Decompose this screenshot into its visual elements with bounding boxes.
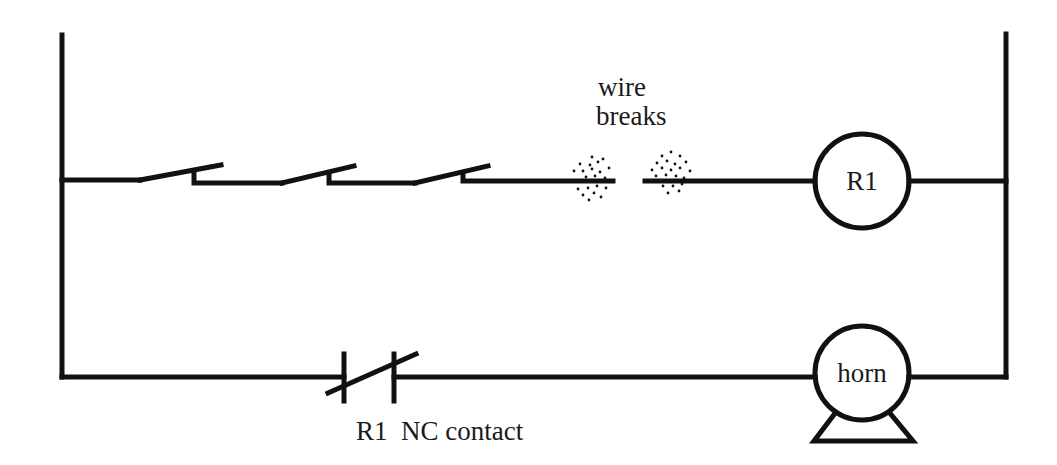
ladder-diagram: wire breaks R1 horn R1 NC contact [0, 0, 1057, 465]
normally-open-switch-1 [140, 165, 282, 183]
normally-open-switch-2 [282, 166, 415, 183]
wire-break-label-line2: breaks [596, 101, 666, 131]
normally-open-switch-3 [415, 166, 613, 183]
wire-break-label-line1: wire [598, 72, 646, 102]
wire-break-dots-right [651, 151, 692, 195]
nc-contact-label: R1 NC contact [356, 416, 524, 446]
horn-label: horn [837, 358, 887, 388]
coil-label: R1 [846, 166, 878, 196]
